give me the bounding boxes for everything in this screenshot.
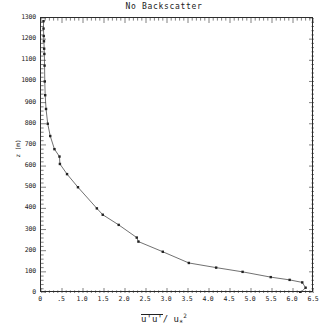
x-axis-superscript: 2 [183,312,187,319]
data-point [288,279,290,281]
y-tick-label: 300 [6,225,36,233]
data-point [58,155,60,157]
y-tick-label: 900 [6,98,36,106]
data-point [96,207,98,209]
data-point [44,94,46,96]
data-line [44,21,306,293]
x-axis-numerator: u'u' [141,314,163,324]
y-tick-label: 500 [6,182,36,190]
y-tick-label: 800 [6,119,36,127]
data-point [45,108,47,110]
x-tick-label: 6.5 [300,295,326,303]
data-point [43,35,45,37]
data-point [188,262,190,264]
data-point [42,20,44,22]
y-tick-label: 400 [6,203,36,211]
data-point [270,276,272,278]
data-point [66,173,68,175]
x-axis-divider: / u [163,314,179,324]
data-point [77,186,79,188]
data-point [43,53,45,55]
data-point [43,64,45,66]
data-point [241,271,243,273]
y-tick-label: 1300 [6,13,36,21]
y-tick-label: 600 [6,161,36,169]
plot-area [40,17,313,292]
data-point [136,236,138,238]
x-axis-title: u'u'/ u*2 [0,312,328,327]
data-point [118,224,120,226]
y-tick-label: 100 [6,267,36,275]
data-point [304,287,306,289]
y-tick-label: 1000 [6,76,36,84]
axis-ticks [41,18,314,293]
x-axis-subscript: * [179,319,183,327]
data-point [59,163,61,165]
data-point [215,266,217,268]
data-point [47,123,49,125]
data-markers [42,20,306,293]
data-point [43,40,45,42]
data-point [44,80,46,82]
chart-figure: No Backscatter 0100200300400500600700800… [0,0,328,336]
data-point [102,214,104,216]
y-tick-label: 1200 [6,34,36,42]
plot-canvas [41,18,314,293]
data-point [43,47,45,49]
chart-title: No Backscatter [0,2,328,11]
y-axis-title: z (m) [14,129,21,169]
y-tick-label: 700 [6,140,36,148]
data-point [162,251,164,253]
y-tick-label: 1100 [6,55,36,63]
data-point [137,240,139,242]
data-point [42,27,44,29]
y-tick-label: 200 [6,246,36,254]
data-point [53,148,55,150]
data-point [299,292,301,293]
data-point [49,135,51,137]
data-point [301,281,303,283]
